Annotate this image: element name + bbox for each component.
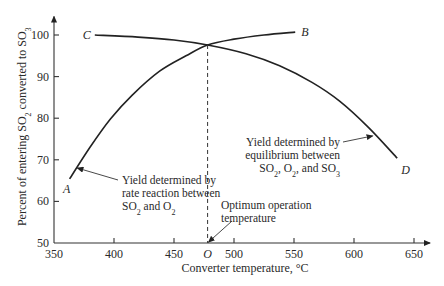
equilibrium-annotation-line: Yield determined by — [246, 136, 340, 149]
x-axis-title: Converter temperature, °C — [181, 261, 308, 275]
y-tick-label: 90 — [37, 70, 49, 84]
labels: ABCDOYield determined byrate reaction be… — [62, 25, 410, 261]
point-label-a: A — [62, 182, 71, 196]
rate-annotation-line: rate reaction between — [122, 187, 221, 199]
y-axis-title: Percent of entering SO2 converted to SO3 — [15, 27, 33, 226]
y-tick-label: 100 — [31, 28, 49, 42]
point-label-c: C — [83, 28, 92, 42]
y-tick-label: 80 — [37, 111, 49, 125]
rate-annotation-line: SO2 and O2 — [122, 200, 175, 217]
point-label-o: O — [203, 247, 212, 261]
x-tick-label: 600 — [345, 247, 363, 261]
point-label-b: B — [301, 25, 309, 39]
optimum-annotation-line: Optimum operation — [221, 199, 312, 212]
chart: 3504004505005506006505060708090100 ABCDO… — [0, 0, 444, 286]
equilibrium-annotation-line: equilibrium between — [245, 149, 340, 162]
x-tick-label: 500 — [225, 247, 243, 261]
y-tick-label: 60 — [37, 194, 49, 208]
x-tick-label: 550 — [285, 247, 303, 261]
axes: 3504004505005506006505060708090100 — [31, 17, 430, 261]
equilibrium-annotation-arrow — [343, 136, 373, 142]
optimum-annotation-arrow — [209, 221, 232, 242]
x-tick-label: 450 — [165, 247, 183, 261]
y-tick-label: 50 — [37, 236, 49, 250]
rate-annotation-arrow — [77, 168, 118, 180]
y-tick-label: 70 — [37, 153, 49, 167]
point-label-d: D — [400, 163, 410, 177]
x-tick-label: 400 — [105, 247, 123, 261]
equilibrium-annotation-line: SO2, O2, and SO3 — [259, 162, 340, 179]
rate-annotation-line: Yield determined by — [122, 174, 216, 187]
x-tick-label: 650 — [405, 247, 423, 261]
